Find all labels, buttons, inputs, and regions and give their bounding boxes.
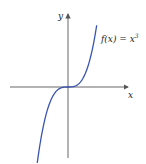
x-axis-label: x bbox=[128, 90, 133, 100]
y-axis-label: y bbox=[57, 11, 64, 21]
function-label: f(x) = x3 bbox=[100, 32, 139, 44]
cubic-function-plot: x y f(x) = x3 bbox=[0, 0, 146, 164]
cubic-curve bbox=[37, 25, 96, 163]
